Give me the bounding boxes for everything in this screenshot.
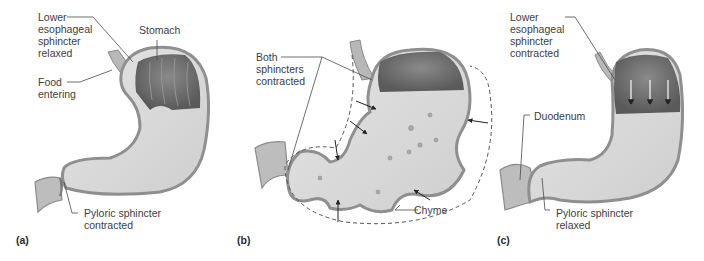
label-stomach: Stomach (139, 24, 180, 36)
label-lower-esophageal-sphincter-contracted: Lower esophageal sphincter contracted (510, 11, 564, 59)
label-lower-esophageal-sphincter-relaxed: Lower esophageal sphincter relaxed (38, 11, 92, 59)
label-pyloric-sphincter-relaxed: Pyloric sphincter relaxed (556, 207, 633, 231)
label-both-sphincters-contracted: Both sphincters contracted (256, 51, 305, 87)
label-pyloric-sphincter-contracted: Pyloric sphincter contracted (84, 207, 161, 231)
panel-letter-c: (c) (497, 234, 510, 246)
label-duodenum: Duodenum (534, 110, 585, 122)
label-food-entering: Food entering (38, 76, 76, 100)
label-chyme: Chyme (414, 204, 447, 216)
panel-letter-b: (b) (237, 234, 250, 246)
panel-letter-a: (a) (16, 234, 29, 246)
panel-a-stomach (35, 47, 209, 212)
